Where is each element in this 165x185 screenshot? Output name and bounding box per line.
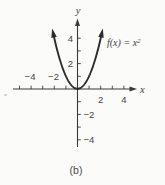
function-label: f(x) = x2 xyxy=(107,37,141,50)
x-tick-label: −4 xyxy=(25,71,36,82)
x-axis-arrowhead-icon xyxy=(130,87,138,92)
function-label-base: f(x) = x xyxy=(107,37,138,49)
x-axis-label: x xyxy=(139,84,145,95)
x-tick-labels: −4 −2 2 4 xyxy=(25,71,127,105)
curve-arrowhead-right-icon xyxy=(98,28,105,38)
x-tick-label: 2 xyxy=(98,94,103,105)
scan-artifact-dot xyxy=(4,94,7,96)
x-tick-label: −2 xyxy=(48,71,59,82)
curve-arrowhead-left-icon xyxy=(49,28,56,38)
figure-container: y x −4 −2 2 4 4 2 −2 −4 f(x) = x2 (b) xyxy=(0,0,165,185)
figure-caption: (b) xyxy=(70,164,83,176)
y-axis-label: y xyxy=(75,5,81,16)
y-tick-label: −2 xyxy=(84,109,95,120)
y-tick-label: 4 xyxy=(68,33,73,44)
y-tick-label: 2 xyxy=(68,58,73,69)
y-axis-arrowhead-icon xyxy=(75,19,80,27)
x-tick-label: 4 xyxy=(121,94,126,105)
y-tick-label: −4 xyxy=(84,134,95,145)
parabola-graph-svg: y x −4 −2 2 4 4 2 −2 −4 f(x) = x2 (b) xyxy=(0,0,165,185)
function-label-exponent: 2 xyxy=(137,37,141,45)
